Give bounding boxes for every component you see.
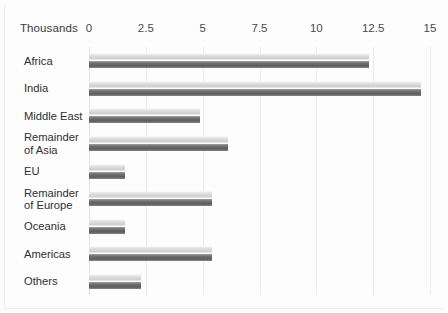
category-label-others: Others [24, 275, 58, 288]
category-label-remainder-of-asia: Remainderof Asia [24, 131, 79, 156]
category-label-middle-east: Middle East [24, 110, 82, 123]
bar-americas [89, 246, 212, 261]
x-tick-label-2-5: 2.5 [138, 22, 154, 34]
plot-area [89, 47, 430, 295]
x-axis-tick-labels: 02.557.51012.515 [0, 0, 448, 30]
category-label-line: Africa [24, 55, 53, 68]
category-label-line: Others [24, 275, 58, 288]
category-label-line: Oceania [24, 220, 66, 233]
bar-remainder-of-asia [89, 136, 228, 151]
x-tick-label-7-5: 7.5 [252, 22, 268, 34]
category-label-africa: Africa [24, 55, 53, 68]
category-label-line: India [24, 82, 48, 95]
category-label-line: Americas [24, 247, 71, 260]
category-label-line: of Asia [24, 143, 79, 156]
x-tick-label-0: 0 [86, 22, 92, 34]
gridline-15 [430, 47, 431, 295]
bar-oceania [89, 219, 125, 234]
bar-others [89, 274, 141, 289]
bar-india [89, 81, 421, 96]
bar-eu [89, 164, 125, 179]
bar-middle-east [89, 108, 200, 123]
x-tick-label-10: 10 [310, 22, 323, 34]
category-label-line: Middle East [24, 110, 82, 123]
x-tick-label-12-5: 12.5 [362, 22, 384, 34]
category-label-line: Remainder [24, 131, 79, 144]
category-label-americas: Americas [24, 247, 71, 260]
category-label-line: of Europe [24, 199, 79, 212]
x-tick-label-15: 15 [424, 22, 437, 34]
category-label-line: EU [24, 165, 40, 178]
category-label-oceania: Oceania [24, 220, 66, 233]
category-label-line: Remainder [24, 186, 79, 199]
category-label-eu: EU [24, 165, 40, 178]
category-label-remainder-of-europe: Remainderof Europe [24, 186, 79, 211]
bar-chart: Thousands 02.557.51012.515 AfricaIndiaMi… [0, 0, 448, 313]
bar-africa [89, 53, 369, 68]
category-label-india: India [24, 82, 48, 95]
x-tick-label-5: 5 [199, 22, 205, 34]
bar-remainder-of-europe [89, 191, 212, 206]
